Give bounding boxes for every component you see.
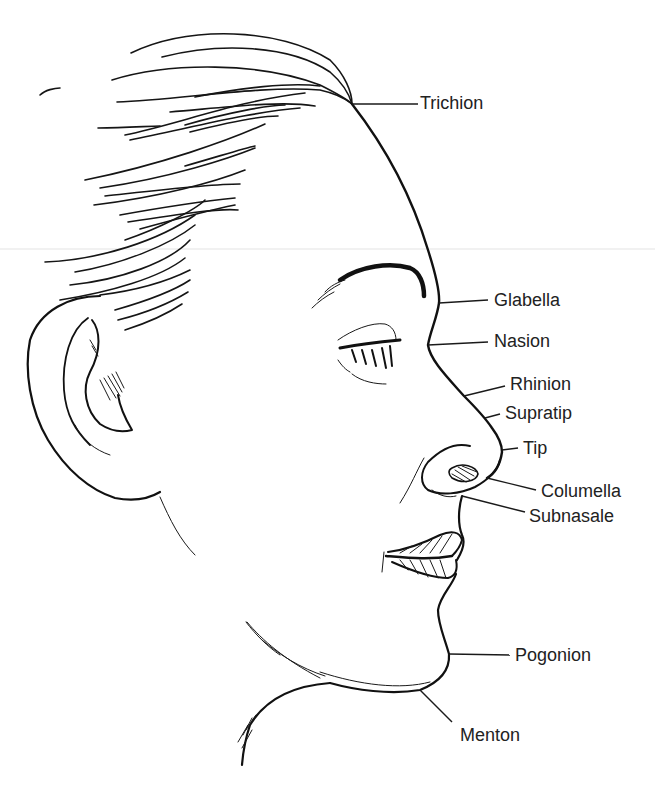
label-rhinion: Rhinion (510, 375, 571, 393)
label-trichion: Trichion (420, 94, 483, 112)
label-tip: Tip (523, 439, 547, 457)
eye-and-brow (312, 265, 424, 384)
hair-strokes (40, 34, 352, 330)
label-glabella: Glabella (494, 291, 560, 309)
label-supratip: Supratip (505, 404, 572, 422)
nose (400, 445, 500, 503)
label-subnasale: Subnasale (529, 507, 614, 525)
label-pogonion: Pogonion (515, 646, 591, 664)
ear (28, 296, 160, 500)
label-menton: Menton (460, 726, 520, 744)
label-columella: Columella (541, 482, 621, 500)
profile-outline (160, 104, 502, 765)
lips (382, 532, 462, 578)
label-nasion: Nasion (494, 332, 550, 350)
